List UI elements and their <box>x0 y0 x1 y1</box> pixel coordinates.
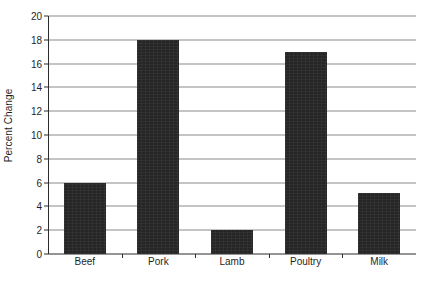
plot-area <box>48 16 416 254</box>
bar <box>64 183 106 254</box>
y-axis-tick-label: 18 <box>31 34 42 45</box>
y-axis-tick-label: 20 <box>31 11 42 22</box>
y-axis-tick-label: 16 <box>31 58 42 69</box>
bar <box>285 52 327 254</box>
y-axis-tick-label-group: 02468101214161820 <box>20 16 46 254</box>
y-axis-tick-label: 4 <box>36 201 42 212</box>
x-axis-category-label: Poultry <box>290 256 321 267</box>
x-axis-category-label: Beef <box>75 256 96 267</box>
x-axis-category-label-group: BeefPorkLambPoultryMilk <box>48 256 416 274</box>
y-axis-title-text: Percent Change <box>4 88 15 162</box>
bars-group <box>48 16 416 254</box>
y-axis-tick-label: 0 <box>36 249 42 260</box>
x-axis-category-label: Pork <box>148 256 169 267</box>
y-axis-tick-label: 6 <box>36 177 42 188</box>
y-axis-tick-label: 8 <box>36 153 42 164</box>
y-axis-tick-label: 14 <box>31 82 42 93</box>
x-axis-category-label: Milk <box>370 256 388 267</box>
x-axis-category-label: Lamb <box>219 256 244 267</box>
y-axis-tick-label: 10 <box>31 130 42 141</box>
bar <box>211 230 253 254</box>
bar <box>358 193 400 254</box>
y-axis-tick-label: 12 <box>31 106 42 117</box>
bar-chart-figure: Percent Change 02468101214161820 BeefPor… <box>0 0 432 282</box>
y-axis-title: Percent Change <box>0 0 18 250</box>
y-axis-tick-label: 2 <box>36 225 42 236</box>
bar <box>137 40 179 254</box>
